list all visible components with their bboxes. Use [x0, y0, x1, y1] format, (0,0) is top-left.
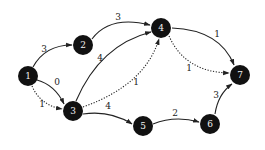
node-label-3: 3	[70, 106, 76, 116]
edge-label-1-3-dotted: 1	[39, 99, 45, 109]
edge-4-7-dotted	[169, 36, 229, 73]
node-2: 2	[73, 35, 93, 55]
edge-1-3-dotted	[32, 86, 62, 109]
node-label-2: 2	[80, 40, 86, 50]
node-3: 3	[63, 101, 83, 121]
edge-label-4-7-solid: 1	[214, 29, 220, 39]
edge-1-2	[33, 45, 72, 67]
edge-label-2-4: 3	[115, 12, 121, 22]
edge-label-4-7-dotted: 1	[186, 63, 192, 73]
graph-diagram: 3 0 1 3 4 1 4 1 1 2 3 1 2 3 4 5 6 7	[0, 0, 265, 150]
edge-4-7-solid	[172, 28, 234, 65]
node-label-6: 6	[207, 119, 213, 129]
edge-label-3-4-dotted: 1	[133, 77, 139, 87]
edge-label-3-4-solid: 4	[97, 53, 103, 63]
edge-3-5	[83, 113, 132, 124]
edge-2-4	[92, 22, 150, 39]
edge-5-6	[153, 119, 199, 124]
node-label-1: 1	[25, 71, 31, 81]
edge-3-4-dotted	[83, 39, 159, 107]
node-7: 7	[230, 65, 250, 85]
edge-label-1-2: 3	[41, 44, 47, 54]
node-label-4: 4	[158, 23, 164, 33]
edge-label-1-3-solid: 0	[54, 77, 60, 87]
edge-label-6-7: 3	[213, 90, 219, 100]
node-label-7: 7	[237, 70, 243, 80]
node-1: 1	[18, 66, 38, 86]
node-4: 4	[151, 18, 171, 38]
node-5: 5	[133, 116, 153, 136]
node-label-5: 5	[140, 121, 146, 131]
node-6: 6	[200, 114, 220, 134]
edge-label-5-6: 2	[172, 108, 178, 118]
edge-label-3-5: 4	[105, 101, 111, 111]
